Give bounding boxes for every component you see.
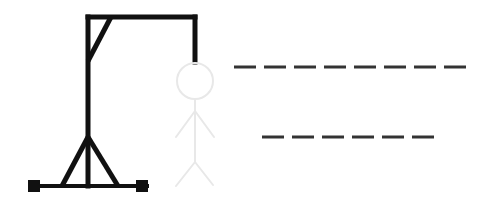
gallows-foot	[28, 180, 40, 192]
figure-left-arm	[176, 111, 195, 137]
gallows-tripod-left	[62, 137, 88, 186]
hangman-game: Hangman	[0, 0, 492, 198]
figure-right-leg	[195, 162, 213, 185]
gallows-foot	[136, 180, 148, 192]
game-board	[0, 0, 492, 198]
figure-head	[177, 63, 213, 99]
word-blanks	[234, 67, 466, 137]
figure-right-arm	[195, 111, 214, 137]
hangman-figure	[176, 63, 214, 186]
gallows-brace	[88, 17, 111, 61]
figure-left-leg	[176, 162, 195, 186]
gallows-tripod-right	[88, 137, 118, 186]
gallows	[28, 17, 195, 192]
